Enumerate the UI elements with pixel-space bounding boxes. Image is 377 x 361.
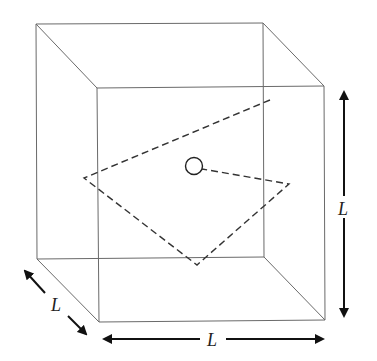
particle-circle: [186, 158, 203, 175]
height-dimension-arrow: L: [337, 92, 348, 316]
depth-dimension-arrow: L: [25, 271, 86, 334]
height-label: L: [337, 199, 348, 219]
diagram-canvas: L L L: [0, 0, 377, 361]
cube-front-face: [97, 86, 325, 322]
cube-diagram: L L L: [0, 0, 377, 361]
particle-trajectory: [84, 100, 289, 265]
depth-label: L: [50, 295, 61, 315]
width-dimension-arrow: L: [104, 330, 323, 350]
cube-depth-edges: [36, 23, 325, 322]
cube-back-face: [36, 23, 264, 259]
width-label: L: [206, 330, 217, 350]
